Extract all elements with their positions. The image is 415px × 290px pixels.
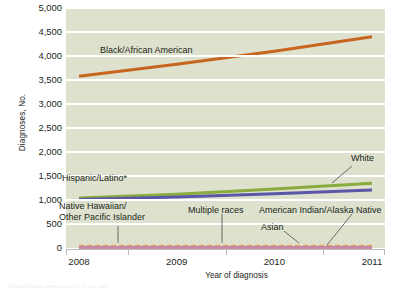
x-axis-tick xyxy=(384,249,385,255)
annotation-multiple-races: Multiple races xyxy=(188,205,244,216)
x-axis-tick xyxy=(226,249,227,255)
annotation-hispanic-latino: Hispanic/Latino* xyxy=(62,173,127,184)
x-axis-tick-label: 2008 xyxy=(49,256,109,267)
gridline xyxy=(66,103,385,105)
annotation-label-line2: Other Pacific Islander xyxy=(59,212,145,223)
annotation-american-indian-alaska-native: American Indian/Alaska Native xyxy=(259,205,382,216)
y-axis-tick-label: 2,500 xyxy=(16,122,62,133)
x-axis-tick xyxy=(128,249,129,255)
y-axis-tick-label: 4,000 xyxy=(16,50,62,61)
y-axis-tick-label: 1,000 xyxy=(16,194,62,205)
y-axis-tick-label: 5,000 xyxy=(16,2,62,13)
x-axis-tick-label: 2010 xyxy=(244,256,304,267)
diagnoses-by-year-line-chart: Diagnoses, No. 05001,0001,5002,0002,5003… xyxy=(0,0,415,290)
x-axis-title-text: Year of diagnosis xyxy=(205,271,268,280)
gridline xyxy=(66,127,385,129)
x-axis-tick-label: 2009 xyxy=(147,256,207,267)
y-axis-tick-label: 500 xyxy=(16,218,62,229)
y-axis-tick-label: 3,500 xyxy=(16,74,62,85)
annotation-asian: Asian xyxy=(261,222,284,233)
annotation-white: White xyxy=(351,153,374,164)
x-axis-title: Year of diagnosis xyxy=(0,271,415,280)
y-axis-tick-label: 2,000 xyxy=(16,146,62,157)
gridline xyxy=(66,223,385,225)
annotation-native-hawaiian: Native Hawaiian/Other Pacific Islander xyxy=(59,201,145,222)
gridline xyxy=(66,7,385,9)
footnote: *Hispanic/Latino persons can be of any r… xyxy=(6,283,109,289)
x-axis-tick-label: 2011 xyxy=(342,256,402,267)
annotation-label-line1: Native Hawaiian/ xyxy=(59,201,145,212)
y-axis-tick-label: 4,500 xyxy=(16,26,62,37)
x-axis-tick xyxy=(323,249,324,255)
annotation-black-african-american: Black/African American xyxy=(100,45,193,56)
gridline xyxy=(66,151,385,153)
x-axis-tick xyxy=(66,249,67,255)
gridline xyxy=(66,31,385,33)
y-axis-tick-label: 0 xyxy=(16,242,62,253)
y-axis-tick-label: 3,000 xyxy=(16,98,62,109)
gridline xyxy=(66,79,385,81)
y-axis-tick-label: 1,500 xyxy=(16,170,62,181)
